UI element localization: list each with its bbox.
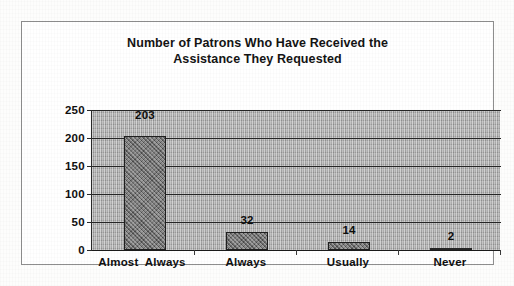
bar-never[interactable]: [430, 248, 472, 250]
chart-frame: Number of Patrons Who Have Received the …: [21, 21, 494, 265]
bar-usually[interactable]: [328, 242, 370, 250]
chart-title-line-1: Number of Patrons Who Have Received the: [22, 35, 493, 51]
value-label-usually: 14: [328, 224, 370, 236]
chart-title: Number of Patrons Who Have Received the …: [22, 35, 493, 67]
x-category-label-always: Always: [195, 256, 297, 268]
bar-almost-always[interactable]: [124, 136, 166, 250]
y-tick-mark-150: [87, 166, 92, 167]
plot-area: 203 32 14 2: [91, 110, 500, 250]
y-tick-mark-100: [87, 194, 92, 195]
y-axis-tick-labels: 250 200 150 100 50 0: [41, 110, 85, 250]
bar-always[interactable]: [226, 232, 268, 250]
chart-title-line-2: Assistance They Requested: [22, 51, 493, 67]
value-label-never: 2: [430, 230, 472, 242]
x-tick-mark-2: [296, 250, 297, 255]
y-tick-label-200: 200: [41, 132, 85, 144]
y-tick-mark-200: [87, 138, 92, 139]
x-category-label-never: Never: [399, 256, 501, 268]
value-label-always: 32: [226, 214, 268, 226]
x-axis-category-labels: Almost Always Always Usually Never: [91, 256, 500, 276]
y-tick-label-150: 150: [41, 160, 85, 172]
y-tick-label-250: 250: [41, 104, 85, 116]
y-tick-label-0: 0: [41, 244, 85, 256]
x-category-label-usually: Usually: [297, 256, 399, 268]
x-category-label-almost-always: Almost Always: [85, 256, 199, 268]
y-tick-label-100: 100: [41, 188, 85, 200]
y-tick-label-50: 50: [41, 216, 85, 228]
x-tick-mark-4: [500, 250, 501, 255]
y-tick-mark-250: [87, 110, 92, 111]
value-label-almost-always: 203: [124, 109, 166, 121]
y-tick-mark-0: [87, 250, 92, 251]
x-tick-mark-1: [194, 250, 195, 255]
x-tick-mark-3: [398, 250, 399, 255]
bar-chart-figure: Number of Patrons Who Have Received the …: [0, 0, 514, 286]
y-tick-mark-50: [87, 222, 92, 223]
